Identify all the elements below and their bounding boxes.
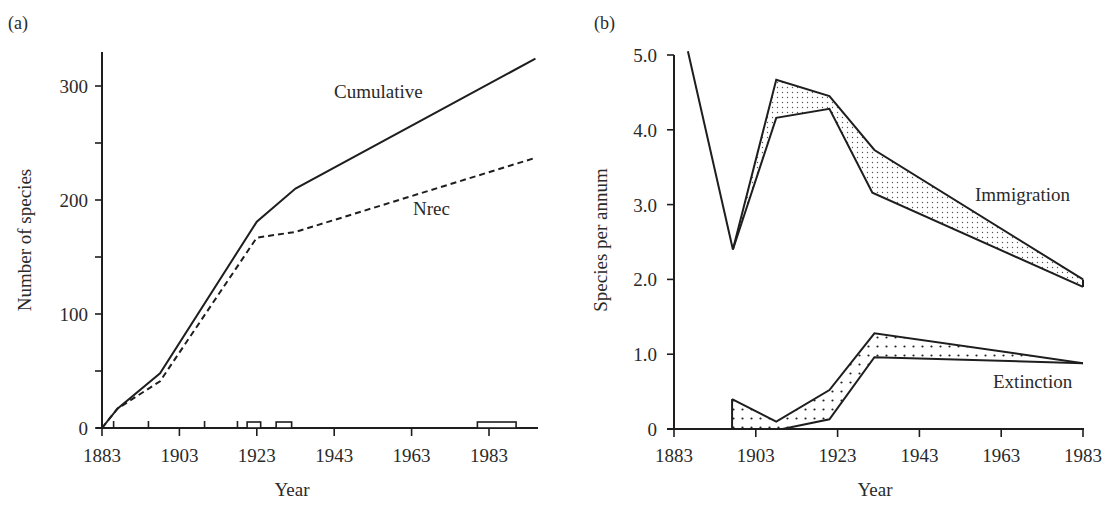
y-tick-label: 100 xyxy=(60,304,89,325)
x-tick-label: 1963 xyxy=(393,445,431,466)
panel-b-x-axis-title: Year xyxy=(857,479,893,500)
y-tick-label: 1.0 xyxy=(633,344,657,365)
survey-period-box xyxy=(477,422,516,428)
panel-a-number-of-species: (a) 0100200300188319031923194319631983 C… xyxy=(8,13,538,500)
panel-b-species-per-annum: (b) 01.02.03.04.05.018831903192319431963… xyxy=(590,13,1102,500)
panel-a-axes: 0100200300188319031923194319631983 xyxy=(60,52,539,466)
panel-b-y-axis-title: Species per annum xyxy=(590,168,611,312)
x-tick-label: 1943 xyxy=(315,445,353,466)
x-tick-label: 1983 xyxy=(1064,445,1102,466)
x-tick-label: 1883 xyxy=(83,445,121,466)
x-tick-label: 1963 xyxy=(982,445,1020,466)
y-tick-label: 200 xyxy=(60,190,89,211)
y-tick-label: 5.0 xyxy=(633,45,657,66)
survey-period-box xyxy=(247,422,261,428)
x-tick-label: 1923 xyxy=(819,445,857,466)
cumulative-series-label: Cumulative xyxy=(334,81,423,102)
y-tick-label: 4.0 xyxy=(633,120,657,141)
extinction-series-label: Extinction xyxy=(993,371,1073,392)
survey-period-box xyxy=(276,422,291,428)
panel-a-y-axis-title: Number of species xyxy=(14,169,35,311)
x-tick-label: 1923 xyxy=(238,445,276,466)
y-tick-label: 0 xyxy=(648,419,658,440)
nrec-series-label: Nrec xyxy=(413,198,450,219)
panel-a-x-axis-title: Year xyxy=(274,479,310,500)
y-tick-label: 300 xyxy=(60,76,89,97)
y-tick-label: 3.0 xyxy=(633,195,657,216)
immigration-series-label: Immigration xyxy=(975,184,1070,205)
panel-a-series xyxy=(102,59,535,428)
x-tick-label: 1903 xyxy=(737,445,775,466)
y-tick-label: 2.0 xyxy=(633,269,657,290)
nrec-dashed-line xyxy=(102,158,535,428)
x-tick-label: 1903 xyxy=(160,445,198,466)
cumulative-line xyxy=(102,59,535,428)
panel-a-label: (a) xyxy=(8,13,28,34)
y-tick-label: 0 xyxy=(79,418,89,439)
figure: (a) 0100200300188319031923194319631983 C… xyxy=(0,0,1111,517)
x-tick-label: 1983 xyxy=(470,445,508,466)
panel-b-label: (b) xyxy=(594,13,615,34)
x-tick-label: 1883 xyxy=(655,445,693,466)
x-tick-label: 1943 xyxy=(900,445,938,466)
